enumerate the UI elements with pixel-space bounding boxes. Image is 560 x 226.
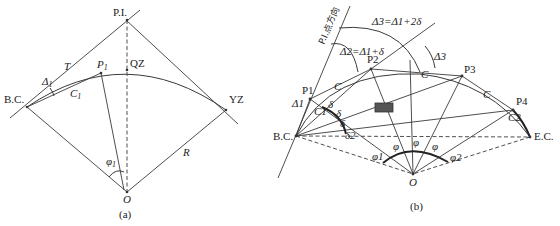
label-qz: QZ [130,57,145,69]
label-phi2-b: φ2 [450,151,462,163]
label-bc: B.C. [4,93,24,105]
radius-p4-b [413,110,513,174]
label-c-3: C [483,88,491,100]
label-delta3-eq: Δ3=Δ1+2δ [371,15,422,27]
angle-phi1-arc [109,171,124,177]
tangent-line-bc [278,6,350,178]
label-p1-b: P1 [302,84,314,96]
label-c2-b: C2 [508,111,521,123]
label-ec-b: E.C. [534,130,554,142]
radius-bc [27,107,127,192]
label-phi-1: φ [393,140,399,152]
diagram-b: P.I.点方向 Δ3=Δ1+2δ Δ2=Δ1+δ Δ3 Δ1 P1 P2 P3 … [273,5,554,213]
caption-b: (b) [410,200,423,213]
label-c-1: C [334,80,342,92]
label-delta-3: δ [340,117,346,129]
caption-a: (a) [119,208,132,221]
label-pi: P.I. [113,6,127,18]
label-p2-b: P2 [367,53,379,65]
label-c-2: C [421,68,429,80]
label-delta1-b: Δ1 [291,97,304,109]
label-p3-b: P3 [464,63,476,75]
label-delta-1: δ [328,98,334,110]
label-phi-2: φ [413,136,419,148]
curve-setting-diagram: P.I. QZ B.C. YZ P1 T Δ1 C1 R O φ1 (a) [0,0,560,226]
label-c1-b: C1 [314,105,327,117]
label-t: T [64,60,71,72]
radius-mid-b [410,60,413,174]
label-delta2-b: δ2 [345,129,356,141]
diagram-a: P.I. QZ B.C. YZ P1 T Δ1 C1 R O φ1 (a) [4,6,244,221]
label-o-b: O [409,176,417,188]
label-phi1-b: φ1 [372,150,384,162]
label-delta3: Δ3 [433,50,446,62]
radius-ec-b [413,137,530,174]
chord-c1 [27,73,101,107]
label-yz: YZ [229,93,244,105]
obstacle-box [375,103,393,112]
label-delta1: Δ1 [41,75,52,89]
label-bc-b: B.C. [273,130,293,142]
label-pi-direction: P.I.点方向 [316,5,342,46]
line-bc-p4 [296,110,513,136]
label-o: O [123,193,131,205]
label-p1: P1 [96,58,108,72]
label-r: R [182,146,190,158]
radius-yz [127,110,226,192]
label-p4-b: P4 [516,95,528,107]
label-c1: C1 [70,87,81,101]
arc-phi-angles [383,151,448,163]
tangent-line-right [126,20,238,124]
tangent-line-left [10,10,140,118]
label-phi1: φ1 [106,155,116,169]
label-phi-3: φ [432,140,438,152]
